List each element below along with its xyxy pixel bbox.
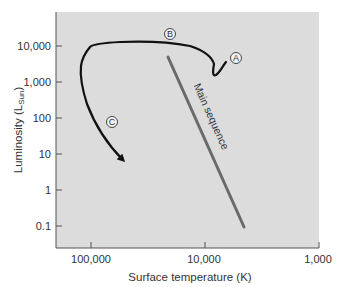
y-tick-label: 1,000 <box>23 76 51 88</box>
svg-text:B: B <box>167 29 173 39</box>
marker-c: C <box>107 117 118 128</box>
svg-text:C: C <box>109 117 116 127</box>
y-tick-label: 10 <box>39 148 51 160</box>
y-tick-label: 1 <box>45 184 51 196</box>
x-tick-label: 100,000 <box>71 253 111 265</box>
y-tick-label: 100 <box>33 112 51 124</box>
x-tick-label: 10,000 <box>187 253 221 265</box>
y-tick-label: 0.1 <box>36 220 51 232</box>
y-axis-title: Luminosity (LSun) <box>12 87 26 174</box>
plot-area <box>56 12 319 248</box>
marker-b: B <box>165 29 176 40</box>
x-tick-label: 1,000 <box>304 253 332 265</box>
y-ticks: 10,000 1,000 100 10 1 0.1 <box>17 40 62 232</box>
x-axis-title: Surface temperature (K) <box>128 271 252 283</box>
y-tick-label: 10,000 <box>17 40 51 52</box>
svg-text:A: A <box>233 53 239 63</box>
marker-a: A <box>231 53 242 64</box>
hr-diagram-chart: 10,000 1,000 100 10 1 0.1 100,000 10,000… <box>0 0 341 287</box>
